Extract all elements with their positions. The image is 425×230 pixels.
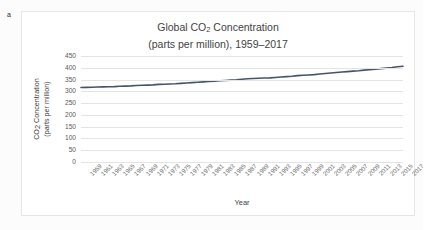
y-axis-tick-labels: 050100150200250300350400450 bbox=[52, 56, 76, 162]
gridline bbox=[81, 127, 403, 128]
y-tick-label: 350 bbox=[52, 76, 76, 83]
y-tick-label: 200 bbox=[52, 112, 76, 119]
y-tick-label: 450 bbox=[52, 53, 76, 60]
chart-card: Global CO2 Concentration (parts per mill… bbox=[21, 11, 415, 216]
y-axis-title: CO2 Concentration (parts per million) bbox=[33, 57, 49, 161]
y-tick-label: 100 bbox=[52, 135, 76, 142]
y-tick-label: 250 bbox=[52, 100, 76, 107]
x-axis-title: Year bbox=[81, 198, 403, 207]
gridline bbox=[81, 103, 403, 104]
gridline bbox=[81, 56, 403, 57]
y-axis-title-prefix: CO bbox=[32, 129, 41, 140]
gridline bbox=[81, 150, 403, 151]
gridline bbox=[81, 138, 403, 139]
y-axis-title-suffix: Concentration bbox=[32, 78, 41, 125]
plot-wrapper: CO2 Concentration (parts per million) 05… bbox=[22, 12, 414, 215]
gridline bbox=[81, 80, 403, 81]
y-tick-label: 150 bbox=[52, 123, 76, 130]
y-axis-title-line-2: (parts per million) bbox=[43, 57, 51, 161]
gridline bbox=[81, 91, 403, 92]
y-tick-label: 400 bbox=[52, 64, 76, 71]
series-line-co2 bbox=[81, 66, 403, 87]
gridline bbox=[81, 115, 403, 116]
panel-label-a: a bbox=[7, 11, 11, 18]
y-axis-title-subscript: 2 bbox=[33, 125, 42, 129]
y-tick-label: 50 bbox=[52, 147, 76, 154]
y-tick-label: 0 bbox=[52, 159, 76, 166]
series-line-chart bbox=[81, 56, 403, 162]
x-axis-tick-labels: 1959196119631965196719691971197319751977… bbox=[81, 163, 403, 197]
gridline bbox=[81, 68, 403, 69]
y-tick-label: 300 bbox=[52, 88, 76, 95]
plot-area bbox=[81, 56, 403, 162]
